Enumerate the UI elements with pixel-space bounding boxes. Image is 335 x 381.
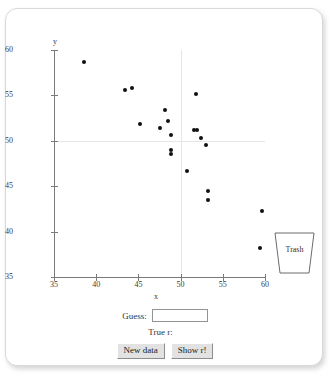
data-point[interactable] — [169, 152, 173, 156]
true-r-label: True r: — [148, 327, 172, 337]
data-point[interactable] — [163, 108, 167, 112]
gridline-vertical — [181, 50, 182, 277]
data-point[interactable] — [206, 189, 210, 193]
data-point[interactable] — [206, 198, 210, 202]
controls-area: Guess: True r: New data Show r! — [6, 309, 324, 364]
data-point[interactable] — [166, 119, 170, 123]
data-point[interactable] — [199, 136, 203, 140]
applet-panel: y x 354045505560354045505560 Trash Guess… — [5, 8, 323, 366]
x-axis-tick-label: 45 — [126, 280, 150, 289]
y-axis-tick-label: 40 — [0, 228, 13, 236]
y-axis-tick-label: 45 — [0, 182, 13, 190]
trash-can[interactable]: Trash — [271, 231, 318, 275]
y-axis-tick — [51, 50, 58, 51]
data-point[interactable] — [169, 133, 173, 137]
y-axis-tick — [51, 232, 58, 233]
y-axis-tick-label: 35 — [0, 273, 13, 281]
y-axis-title: y — [53, 37, 57, 46]
x-axis-line — [54, 277, 265, 278]
x-axis-tick-label: 55 — [211, 280, 235, 289]
trash-label: Trash — [271, 245, 318, 254]
y-axis-tick-label: 50 — [0, 137, 13, 145]
x-axis-tick-label: 40 — [84, 280, 108, 289]
y-axis-tick — [51, 186, 58, 187]
data-point[interactable] — [82, 60, 86, 64]
x-axis-tick-label: 50 — [169, 280, 193, 289]
data-point[interactable] — [158, 126, 162, 130]
button-row: New data Show r! — [6, 343, 324, 359]
guess-input[interactable] — [152, 309, 208, 322]
guess-row: Guess: — [6, 309, 324, 322]
x-axis-title: x — [154, 292, 158, 301]
data-point[interactable] — [260, 209, 264, 213]
y-axis-tick — [51, 141, 58, 142]
guess-label: Guess: — [122, 311, 147, 321]
data-point[interactable] — [194, 92, 198, 96]
x-axis-tick-label: 35 — [42, 280, 66, 289]
data-point[interactable] — [204, 143, 208, 147]
data-point[interactable] — [123, 88, 127, 92]
data-point[interactable] — [130, 86, 134, 90]
new-data-button[interactable]: New data — [117, 343, 165, 359]
data-point[interactable] — [138, 122, 142, 126]
gridline-horizontal — [55, 141, 265, 142]
scatter-plot[interactable]: y x 354045505560354045505560 — [16, 19, 266, 304]
true-r-row: True r: — [6, 327, 324, 337]
y-axis-tick — [51, 95, 58, 96]
x-axis-tick-label: 60 — [253, 280, 277, 289]
y-axis-tick-label: 60 — [0, 46, 13, 54]
data-point[interactable] — [258, 246, 262, 250]
y-axis-tick-label: 55 — [0, 91, 13, 99]
show-r-button[interactable]: Show r! — [171, 343, 214, 359]
y-axis-line — [54, 50, 55, 277]
data-point[interactable] — [195, 128, 199, 132]
data-point[interactable] — [185, 169, 189, 173]
app-root: y x 354045505560354045505560 Trash Guess… — [0, 0, 335, 381]
